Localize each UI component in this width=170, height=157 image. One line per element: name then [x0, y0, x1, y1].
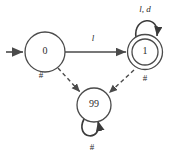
state-node-99-label: 99: [89, 98, 99, 109]
edge-label-state0-to-state1: l: [92, 33, 95, 43]
self-loop-label-state99: #: [90, 142, 95, 152]
edge-state0-to-state99: [58, 68, 80, 92]
state-node-0-label: 0: [43, 45, 48, 56]
edge-state1-to-state99: [109, 70, 134, 93]
state-diagram-figure: l l, d # # # 0 1 99: [0, 0, 170, 157]
edge-label-state1-to-state99: #: [143, 73, 148, 83]
state-diagram-canvas: l l, d # # # 0 1 99: [0, 0, 170, 157]
self-loop-label-state1: l, d: [139, 4, 151, 14]
state-node-1-label: 1: [143, 45, 148, 56]
